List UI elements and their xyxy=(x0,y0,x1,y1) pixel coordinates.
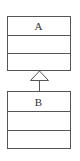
class-b-name: B xyxy=(7,96,70,108)
generalization-arrow xyxy=(31,71,49,91)
class-a-name: A xyxy=(7,20,70,32)
